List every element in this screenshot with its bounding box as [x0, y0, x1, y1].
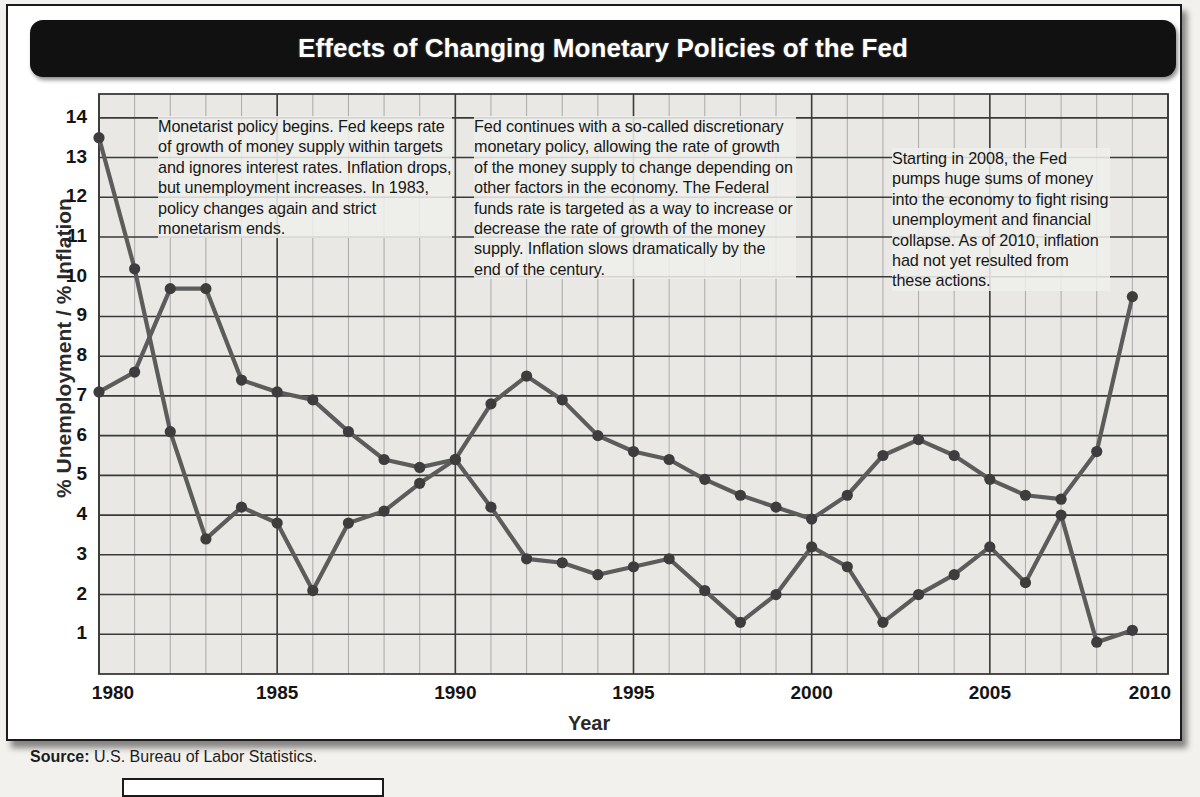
y-axis-tick-label: 12: [43, 185, 87, 207]
data-point: [236, 502, 247, 513]
note-2008-stimulus: Starting in 2008, the Fed pumps huge sum…: [892, 148, 1110, 291]
data-point: [877, 450, 888, 461]
data-point: [414, 478, 425, 489]
figure-root: Effects of Changing Monetary Policies of…: [0, 0, 1200, 797]
data-point: [699, 585, 710, 596]
data-point: [165, 426, 176, 437]
y-axis-tick-label: 10: [43, 265, 87, 287]
data-point: [949, 450, 960, 461]
data-point: [1091, 446, 1102, 457]
page-title: Effects of Changing Monetary Policies of…: [298, 33, 908, 64]
data-point: [770, 589, 781, 600]
data-point: [1020, 490, 1031, 501]
data-point: [628, 561, 639, 572]
data-point: [984, 541, 995, 552]
y-axis-tick-label: 2: [43, 583, 87, 605]
x-axis-tick-label: 1995: [612, 682, 654, 704]
data-point: [699, 474, 710, 485]
data-point: [450, 454, 461, 465]
data-point: [1020, 577, 1031, 588]
data-point: [307, 394, 318, 405]
data-point: [378, 506, 389, 517]
data-point: [592, 569, 603, 580]
y-axis-tick-label: 5: [43, 463, 87, 485]
data-point: [485, 502, 496, 513]
source-text: U.S. Bureau of Labor Statistics.: [94, 748, 317, 765]
source-label: Source:: [30, 748, 90, 765]
data-point: [913, 434, 924, 445]
data-point: [414, 462, 425, 473]
y-axis-tick-label: 1: [43, 622, 87, 644]
x-axis-tick-label: 2000: [791, 682, 833, 704]
y-axis-tick-label: 7: [43, 384, 87, 406]
data-point: [343, 517, 354, 528]
data-point: [343, 426, 354, 437]
y-axis-tick-label: 13: [43, 146, 87, 168]
data-point: [200, 533, 211, 544]
chart-title-bar: Effects of Changing Monetary Policies of…: [30, 20, 1176, 77]
data-point: [664, 553, 675, 564]
data-point: [236, 374, 247, 385]
data-point: [557, 394, 568, 405]
data-point: [592, 430, 603, 441]
data-point: [450, 454, 461, 465]
data-point: [165, 283, 176, 294]
data-point: [378, 454, 389, 465]
data-point: [1091, 637, 1102, 648]
data-point: [521, 370, 532, 381]
y-axis-tick-label: 8: [43, 344, 87, 366]
note-monetarist-policy: Monetarist policy begins. Fed keeps rate…: [158, 116, 452, 238]
data-point: [1127, 625, 1138, 636]
x-axis-tick-label: 2005: [969, 682, 1011, 704]
data-point: [806, 513, 817, 524]
data-point: [307, 585, 318, 596]
data-point: [1056, 494, 1067, 505]
data-point: [557, 557, 568, 568]
data-point: [842, 490, 853, 501]
note-discretionary-policy: Fed continues with a so-called discretio…: [474, 116, 796, 279]
source-note: Source: U.S. Bureau of Labor Statistics.: [30, 748, 317, 766]
data-point: [949, 569, 960, 580]
y-axis-tick-label: 6: [43, 424, 87, 446]
data-point: [93, 386, 104, 397]
data-point: [200, 283, 211, 294]
data-point: [485, 398, 496, 409]
y-axis-tick-label: 3: [43, 543, 87, 565]
x-axis-title: Year: [568, 712, 610, 735]
data-point: [521, 553, 532, 564]
series-line-unemployment: [99, 289, 1132, 519]
data-point: [842, 561, 853, 572]
y-axis-tick-label: 9: [43, 304, 87, 326]
data-point: [735, 617, 746, 628]
data-point: [770, 502, 781, 513]
data-point: [913, 589, 924, 600]
data-point: [1056, 510, 1067, 521]
data-point: [1127, 291, 1138, 302]
legend-stub: [122, 778, 384, 797]
data-point: [272, 386, 283, 397]
data-point: [129, 366, 140, 377]
chart-card: Effects of Changing Monetary Policies of…: [6, 4, 1182, 741]
data-point: [93, 132, 104, 143]
y-axis-tick-label: 11: [43, 225, 87, 247]
x-axis-tick-label: 2010: [1129, 682, 1171, 704]
data-point: [272, 517, 283, 528]
data-point: [806, 541, 817, 552]
y-axis-tick-label: 14: [43, 106, 87, 128]
x-axis-tick-label: 1980: [92, 682, 134, 704]
data-point: [628, 446, 639, 457]
data-point: [129, 263, 140, 274]
x-axis-tick-label: 1985: [256, 682, 298, 704]
x-axis-tick-label: 1990: [434, 682, 476, 704]
data-point: [984, 474, 995, 485]
y-axis-tick-label: 4: [43, 503, 87, 525]
data-point: [877, 617, 888, 628]
data-point: [735, 490, 746, 501]
data-point: [664, 454, 675, 465]
